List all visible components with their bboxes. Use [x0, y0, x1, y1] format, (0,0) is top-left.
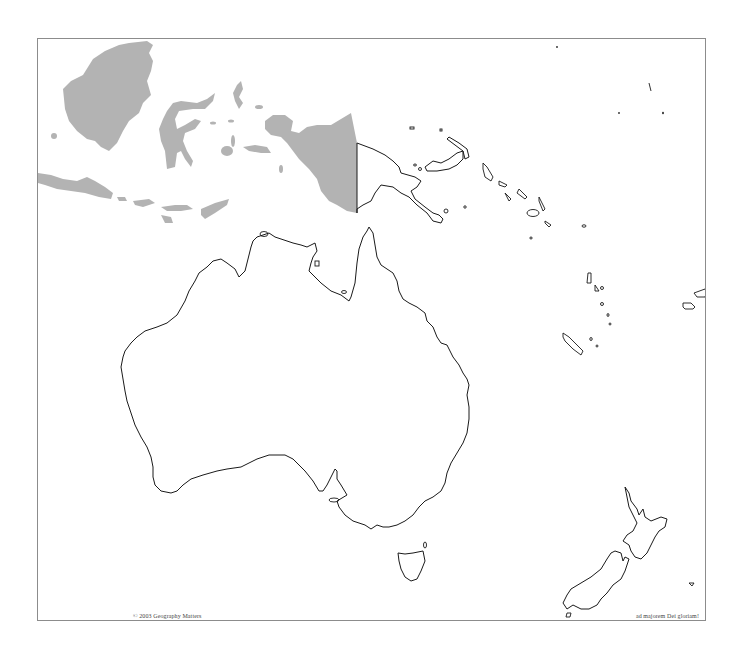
vanuatu-isle — [595, 285, 599, 291]
islet — [609, 323, 611, 325]
islet — [705, 200, 706, 202]
flores-landmass — [161, 205, 193, 211]
map-frame: © 2003 Geography Matters ad majorem Dei … — [37, 38, 706, 621]
new-britain — [425, 151, 463, 171]
new-caledonia — [563, 333, 583, 355]
islet — [530, 237, 532, 239]
chatham-islands — [689, 583, 694, 586]
bougainville — [483, 163, 493, 181]
bali-lombok-landmass — [117, 197, 155, 207]
java-landmass — [38, 173, 113, 199]
vanuatu-isle — [587, 273, 591, 283]
islet — [662, 112, 663, 114]
islet — [582, 225, 586, 227]
australia — [121, 227, 469, 581]
indonesia-shaded — [38, 41, 357, 223]
islet — [649, 83, 651, 91]
fiji-viti-levu — [683, 303, 695, 309]
nz-south-island — [563, 551, 629, 609]
solomon-isle — [499, 181, 507, 187]
islet — [601, 303, 604, 306]
guadalcanal — [527, 210, 539, 217]
islet — [210, 122, 216, 125]
papua-new-guinea — [357, 127, 469, 223]
islet — [414, 164, 417, 166]
islet — [556, 47, 558, 48]
islet — [342, 291, 347, 294]
islet — [444, 209, 448, 213]
stewart-island — [566, 613, 571, 617]
islet — [231, 135, 235, 147]
islet — [590, 338, 592, 341]
islet — [464, 206, 466, 208]
islet — [440, 129, 442, 131]
islet — [255, 105, 263, 109]
copyright-label: © 2003 Geography Matters — [133, 613, 201, 619]
sumba-landmass — [161, 215, 173, 223]
flinders-island — [424, 542, 427, 548]
seram-landmass — [243, 145, 271, 153]
motto-label: ad majorem Dei gloriam! — [636, 613, 699, 619]
tasmania — [398, 551, 425, 581]
png-mainland — [357, 143, 443, 223]
sulawesi-landmass — [159, 93, 215, 169]
solomon-isle — [545, 221, 551, 227]
islet — [228, 120, 234, 123]
islet — [279, 165, 283, 173]
new-zealand — [563, 487, 694, 617]
buru-landmass — [221, 146, 233, 156]
halmahera-landmass — [233, 81, 243, 109]
western-new-guinea-landmass — [265, 113, 357, 213]
islet — [410, 127, 414, 129]
borneo-landmass — [63, 41, 153, 151]
islet — [315, 261, 319, 266]
solomon-isle — [539, 197, 545, 211]
new-ireland — [447, 137, 469, 159]
islet — [596, 345, 598, 347]
kangaroo-island — [329, 498, 339, 502]
australia-mainland — [121, 227, 469, 529]
islet — [607, 314, 609, 317]
islet — [601, 287, 604, 290]
islet — [419, 168, 422, 171]
oceania-map — [38, 39, 706, 621]
timor-landmass — [201, 199, 229, 219]
solomon-isle — [505, 193, 511, 201]
islet — [618, 112, 619, 113]
nz-north-island — [623, 487, 667, 559]
pacific-islands — [483, 47, 706, 355]
fiji-vanua-levu — [694, 289, 706, 297]
solomon-isle — [517, 189, 527, 199]
islet — [51, 133, 57, 139]
